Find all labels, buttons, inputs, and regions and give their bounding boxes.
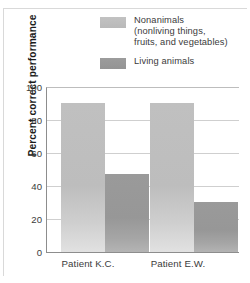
- y-axis-tick-labels: 100 80 60 40 20 0: [0, 87, 42, 252]
- bar-kc-nonanimals: [61, 103, 105, 253]
- legend-label-nonanimals-line-1: Nonanimals: [134, 15, 184, 25]
- legend-label-nonanimals: Nonanimals (nonliving things, fruits, an…: [134, 15, 228, 49]
- legend-label-nonanimals-line-3: fruits, and vegetables): [134, 37, 228, 47]
- bar-kc-living-animals: [105, 174, 149, 253]
- y-tick-60: 60: [2, 148, 42, 159]
- y-tick-100: 100: [2, 82, 42, 93]
- plot-area: [46, 87, 239, 253]
- x-label-patient-kc: Patient K.C.: [44, 258, 132, 269]
- y-tick-40: 40: [2, 181, 42, 192]
- legend-swatch-nonanimals: [100, 17, 126, 28]
- y-tick-80: 80: [2, 115, 42, 126]
- legend-label-living-animals: Living animals: [134, 56, 194, 67]
- legend-label-living-animals-line-1: Living animals: [134, 56, 194, 66]
- bar-chart-figure: Nonanimals (nonliving things, fruits, an…: [0, 0, 250, 283]
- chart-legend: Nonanimals (nonliving things, fruits, an…: [100, 15, 248, 76]
- legend-item-living-animals: Living animals: [100, 56, 248, 69]
- x-axis-line: [46, 252, 239, 253]
- bar-ew-nonanimals: [150, 103, 194, 253]
- x-label-patient-ew: Patient E.W.: [134, 258, 222, 269]
- bar-ew-living-animals: [194, 202, 238, 253]
- y-tick-20: 20: [2, 214, 42, 225]
- legend-label-nonanimals-line-2: (nonliving things,: [134, 26, 206, 36]
- legend-swatch-living-animals: [100, 58, 126, 69]
- legend-item-nonanimals: Nonanimals (nonliving things, fruits, an…: [100, 15, 248, 49]
- y-tick-0: 0: [2, 247, 42, 258]
